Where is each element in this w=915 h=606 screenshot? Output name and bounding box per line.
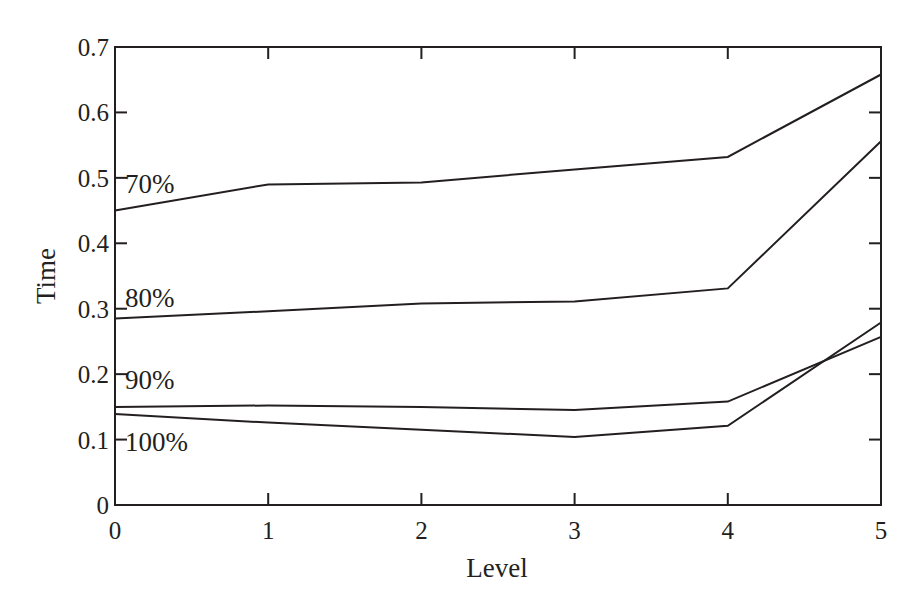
series-line-80pct bbox=[115, 141, 881, 318]
series-labels: 70%80%90%100% bbox=[125, 169, 188, 457]
y-tick-label: 0.7 bbox=[78, 34, 109, 61]
series-label-100pct: 100% bbox=[125, 427, 188, 457]
series-line-70pct bbox=[115, 75, 881, 211]
y-tick-label: 0.4 bbox=[78, 230, 110, 257]
series-lines bbox=[115, 75, 881, 438]
y-tick-label: 0.5 bbox=[78, 165, 109, 192]
x-tick-label: 3 bbox=[568, 517, 581, 544]
series-label-90pct: 90% bbox=[125, 365, 175, 395]
line-chart: 01234500.10.20.30.40.50.60.7 70%80%90%10… bbox=[0, 0, 915, 606]
x-axis-label: Level bbox=[466, 553, 527, 583]
y-tick-label: 0.3 bbox=[78, 296, 109, 323]
plot-border bbox=[115, 47, 881, 505]
axis-ticks: 01234500.10.20.30.40.50.60.7 bbox=[78, 34, 888, 544]
series-label-80pct: 80% bbox=[125, 283, 175, 313]
x-tick-label: 2 bbox=[415, 517, 428, 544]
y-tick-label: 0.2 bbox=[78, 361, 109, 388]
y-tick-label: 0.1 bbox=[78, 427, 109, 454]
y-axis-label: Time bbox=[31, 248, 61, 304]
x-tick-label: 1 bbox=[262, 517, 275, 544]
x-tick-label: 4 bbox=[722, 517, 735, 544]
x-tick-label: 0 bbox=[109, 517, 122, 544]
x-tick-label: 5 bbox=[875, 517, 888, 544]
series-label-70pct: 70% bbox=[125, 169, 175, 199]
y-tick-label: 0 bbox=[97, 492, 110, 519]
y-tick-label: 0.6 bbox=[78, 99, 109, 126]
plot-frame bbox=[115, 47, 881, 505]
series-line-100pct bbox=[115, 323, 881, 438]
